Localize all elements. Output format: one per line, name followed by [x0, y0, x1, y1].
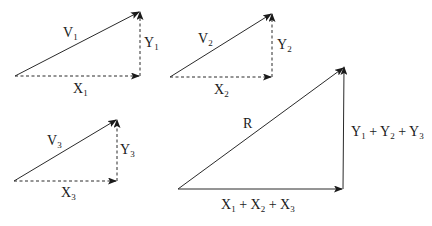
- label-v3: V3: [47, 133, 62, 150]
- label-x2: X2: [214, 82, 229, 99]
- triangle-3: V3 X3 Y3: [14, 120, 135, 202]
- label-v2: V2: [198, 31, 213, 48]
- label-v1: V1: [63, 25, 78, 42]
- label-r: R: [243, 116, 253, 131]
- resultant-r-arrow: [178, 68, 343, 189]
- label-x1: X1: [73, 81, 88, 98]
- label-y-sum: Y1 + Y2 + Y3: [351, 124, 424, 141]
- vector-diagram: V1 X1 Y1 V2 X2 Y2 V3 X3 Y3 R X1 + X2 + X…: [0, 0, 432, 226]
- triangle-2: V2 X2 Y2: [170, 14, 292, 99]
- label-y2: Y2: [277, 37, 292, 54]
- label-y1: Y1: [144, 35, 159, 52]
- vector-v1-arrow: [15, 12, 139, 76]
- y-sum-arrow: [343, 67, 344, 189]
- label-x-sum: X1 + X2 + X3: [221, 197, 295, 214]
- vector-v2-arrow: [170, 14, 271, 77]
- label-x3: X3: [61, 185, 76, 202]
- vector-v3-arrow: [14, 120, 116, 181]
- label-y3: Y3: [120, 142, 135, 159]
- triangle-1: V1 X1 Y1: [15, 12, 159, 98]
